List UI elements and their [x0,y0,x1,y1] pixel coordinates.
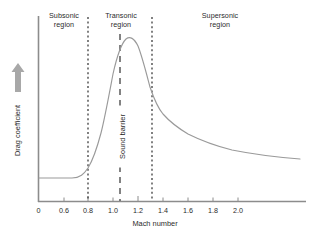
region-label-transonic-line2: region [111,20,131,29]
drag-coefficient-chart: Subsonic region Transonic region Superso… [0,0,310,240]
x-axis-ticks [39,196,239,202]
chart-canvas [0,0,310,240]
region-label-subsonic: Subsonic region [40,12,88,29]
x-tick-label-1.0: 1.0 [103,206,123,215]
sound-barrier-label: Sound barrier [117,106,128,168]
x-tick-label-1.4: 1.4 [153,206,173,215]
x-tick-label-0: 0 [29,206,49,215]
y-axis-title: Drag coefficient [13,86,22,176]
region-label-supersonic: Supersonic region [175,12,265,29]
region-label-subsonic-line2: region [54,20,74,29]
drag-coefficient-curve [39,38,300,178]
x-tick-label-0.8: 0.8 [78,206,98,215]
region-label-supersonic-line2: region [210,20,230,29]
x-tick-label-1.2: 1.2 [128,206,148,215]
x-tick-label-0.6: 0.6 [54,206,74,215]
region-label-transonic: Transonic region [92,12,150,29]
x-tick-label-2.0: 2.0 [228,206,248,215]
x-tick-label-1.8: 1.8 [203,206,223,215]
x-axis-title: Mach number [105,219,205,228]
x-tick-label-1.6: 1.6 [178,206,198,215]
